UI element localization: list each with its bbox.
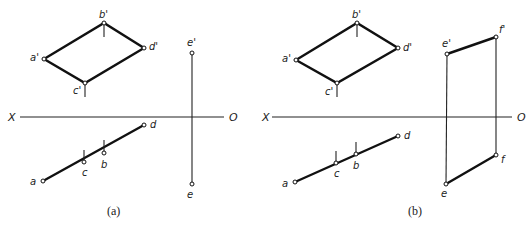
label-d-prime: d' [149,41,158,52]
top-view-line-ef [446,155,496,184]
label-e-prime: e' [442,38,451,49]
label-a-prime: a' [282,53,291,64]
top-view-line-ad [43,125,144,181]
point-a [293,180,297,184]
label-e: e [441,188,447,199]
point-a-prime [294,58,298,62]
caption-b: (b) [408,204,422,218]
point-a-prime [42,57,46,61]
point-d [142,123,146,127]
o-axis-label: O [517,111,526,124]
front-view-plane-abcd [296,23,398,83]
point-c [82,160,86,164]
point-b-prime [355,21,359,25]
label-b: b [353,160,359,171]
caption-a: (a) [107,204,120,218]
label-e-prime: e' [187,37,196,48]
x-axis-label: X [261,111,270,124]
point-c [334,161,338,165]
front-view-plane-abcd [44,23,144,83]
point-d [396,134,400,138]
point-f-prime [494,35,498,39]
point-d-prime [396,46,400,50]
point-e [190,182,194,186]
panel-a: X O a' b' d' c' e' e a c b d (a) [7,9,238,218]
label-d: d [404,130,411,141]
label-d: d [150,119,157,130]
label-c-prime: c' [325,86,333,97]
point-c-prime [335,81,339,85]
label-b-prime: b' [352,9,361,20]
label-e: e [187,189,193,200]
projection-diagram: X O a' b' d' c' e' e a c b d (a) [0,0,530,226]
point-b-prime [102,21,106,25]
point-c-prime [83,81,87,85]
label-c: c [334,168,340,179]
point-e-prime [190,51,194,55]
point-a [41,179,45,183]
label-a: a [282,178,288,189]
point-b [102,151,106,155]
point-b [354,152,358,156]
x-axis-label: X [7,111,16,124]
point-e-prime [445,52,449,56]
label-a-prime: a' [30,52,39,63]
top-view-line-ad [295,136,398,182]
label-b: b [101,159,107,170]
label-f: f [501,154,506,165]
point-f [494,153,498,157]
label-b-prime: b' [99,9,108,20]
front-view-line-ef [447,37,496,54]
point-e [444,182,448,186]
point-d-prime [142,46,146,50]
label-c: c [82,167,88,178]
line-e-projection [446,54,447,184]
o-axis-label: O [229,111,238,124]
label-c-prime: c' [73,85,81,96]
panel-b: X O a' b' d' c' e' f' e f a [261,9,526,218]
label-a: a [30,176,36,187]
label-f-prime: f' [499,24,505,35]
label-d-prime: d' [403,42,412,53]
